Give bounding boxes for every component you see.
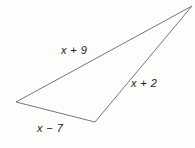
side-label-top: x + 9 [61,45,87,56]
side-label-bottom: x − 7 [37,123,63,134]
triangle-figure: x + 9 x + 2 x − 7 [0,0,195,148]
side-label-right: x + 2 [131,78,157,89]
triangle-outline [16,6,192,122]
triangle-diagram [0,0,195,148]
